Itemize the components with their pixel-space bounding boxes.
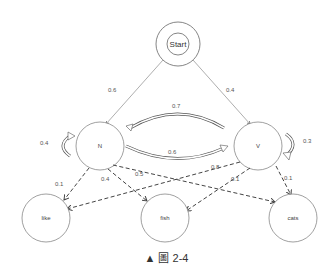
- edge-label-v-fish: 0.1: [231, 176, 240, 182]
- emission-n-like: [64, 168, 89, 200]
- edge-label-v-v: 0.3: [303, 138, 312, 144]
- figure-caption: ▲ 圖 2-4: [0, 249, 333, 265]
- fish-node: fish: [141, 194, 189, 242]
- n-label: N: [98, 143, 102, 149]
- edge-n-v: [126, 114, 224, 131]
- cats-label: cats: [287, 215, 298, 221]
- edge-label-start-n: 0.6: [108, 87, 117, 93]
- edge-start-v: [193, 60, 250, 124]
- start-node: Start: [156, 22, 200, 66]
- edge-label-v-n: 0.6: [168, 149, 177, 155]
- caption-text: 圖 2-4: [158, 252, 188, 264]
- edge-label-start-v: 0.4: [226, 87, 235, 93]
- cats-node: cats: [269, 194, 317, 242]
- edge-label-n-n: 0.4: [40, 140, 49, 146]
- fish-label: fish: [160, 215, 169, 221]
- edge-label-n-v: 0.7: [172, 103, 181, 109]
- edge-v-n: [126, 145, 228, 159]
- hmm-diagram: Start 0.6 0.4 N V 0.7 0.6 0.4 0.3: [0, 0, 333, 278]
- edge-label-n-cats: 0.5: [135, 171, 144, 177]
- self-loop-n: [63, 132, 75, 156]
- edge-label-v-cats: 0.1: [284, 175, 293, 181]
- n-node: N: [76, 122, 124, 170]
- v-label: V: [256, 143, 260, 149]
- triangle-icon: ▲: [145, 252, 156, 264]
- edge-label-n-fish: 0.4: [101, 176, 110, 182]
- self-loop-v: [283, 134, 293, 160]
- edge-label-n-like: 0.1: [55, 181, 64, 187]
- start-label: Start: [170, 40, 188, 49]
- v-node: V: [234, 122, 282, 170]
- like-node: like: [22, 194, 70, 242]
- edge-label-v-like: 0.8: [211, 164, 220, 170]
- like-label: like: [41, 215, 51, 221]
